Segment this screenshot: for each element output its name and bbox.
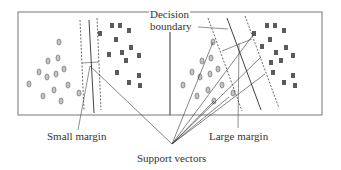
left-class-b-points: [98, 23, 142, 88]
support-vectors-label: Support vectors: [137, 152, 206, 164]
decision-boundary-label-line2: boundary: [149, 20, 193, 32]
right-class-b-points: [252, 23, 297, 88]
left-class-a-points: [27, 39, 81, 104]
left-boundary-lines: [78, 18, 101, 130]
large-margin-label: Large margin: [209, 130, 268, 142]
decision-boundary-label-line1: Decision: [149, 8, 190, 20]
small-margin-label: Small margin: [47, 130, 106, 142]
right-panel-frame: [170, 12, 322, 115]
left-panel-frame: [18, 12, 170, 115]
